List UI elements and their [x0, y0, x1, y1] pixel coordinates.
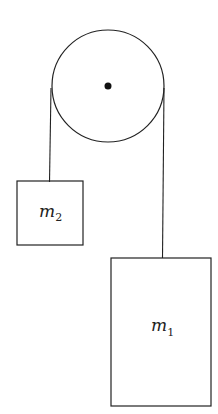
- left-rope: [50, 88, 52, 182]
- pulley-axle: [105, 83, 112, 90]
- mass-m1-label: m1: [151, 315, 174, 339]
- atwood-machine-diagram: m2 m1: [0, 0, 218, 414]
- mass-m1-block: m1: [111, 258, 211, 406]
- mass-m2-label: m2: [39, 201, 62, 224]
- right-rope: [163, 88, 165, 258]
- mass-m2-block: m2: [17, 181, 83, 245]
